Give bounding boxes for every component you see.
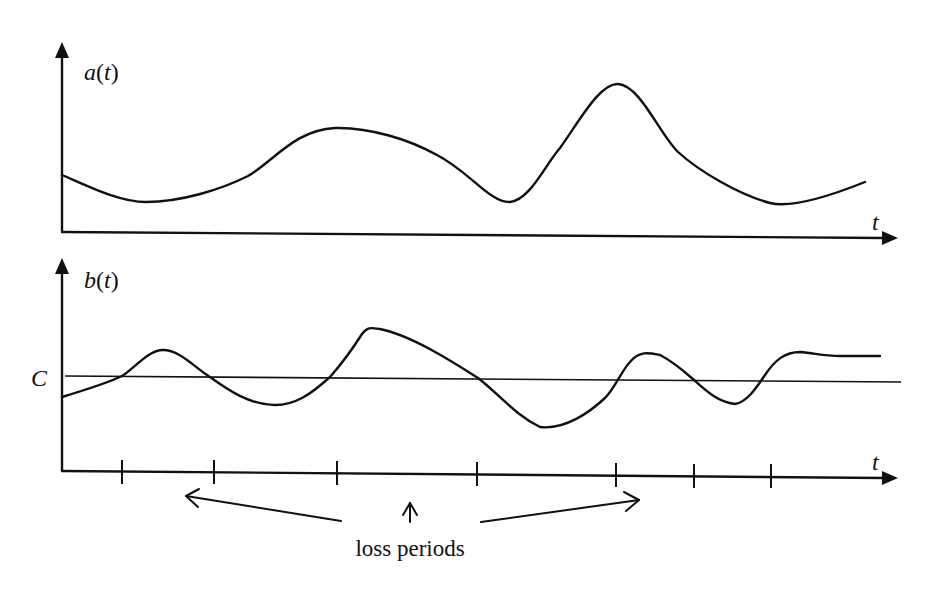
- top-x-label: t: [872, 209, 880, 235]
- loss-periods-label: loss periods: [355, 536, 464, 561]
- bottom-x-axis: [61, 471, 884, 478]
- threshold-label: C: [31, 365, 48, 391]
- top-y-label: a(t): [84, 59, 119, 85]
- bottom-x-label: t: [872, 449, 880, 475]
- curve-b-of-t: [62, 328, 880, 427]
- diagram-canvas: a(t) t b(t) t C: [0, 0, 929, 593]
- loss-periods-annotation: loss periods: [186, 489, 639, 561]
- right-arrow-shaft: [481, 500, 639, 522]
- bottom-y-axis-arrowhead-icon: [55, 258, 69, 274]
- top-plot: a(t) t: [55, 42, 898, 245]
- top-x-axis-arrowhead-icon: [882, 231, 898, 245]
- top-x-axis: [61, 232, 884, 238]
- bottom-y-label: b(t): [84, 267, 119, 293]
- top-y-axis-arrowhead-icon: [55, 42, 69, 58]
- bottom-plot: b(t) t C: [31, 258, 901, 488]
- left-arrow-shaft: [186, 496, 341, 521]
- bottom-x-axis-arrowhead-icon: [882, 471, 898, 485]
- curve-a-of-t: [62, 84, 865, 204]
